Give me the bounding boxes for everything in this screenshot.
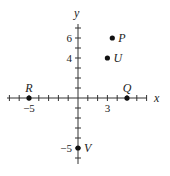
point-marker <box>26 95 31 100</box>
x-axis-label: x <box>153 91 160 105</box>
y-tick-labels: 64−5 <box>60 32 72 154</box>
point-label: Q <box>123 81 132 95</box>
coordinate-plane: x y −53 64−5 PURQV <box>0 0 170 176</box>
point-label: P <box>117 31 126 45</box>
x-tick-labels: −53 <box>23 102 111 114</box>
y-tick-label: 4 <box>67 52 73 64</box>
point-label: U <box>113 51 123 65</box>
point-marker <box>105 55 110 60</box>
y-tick-label: −5 <box>60 142 72 154</box>
x-tick-label: −5 <box>23 102 35 114</box>
point-p: P <box>110 31 127 45</box>
y-axis-label: y <box>73 6 80 20</box>
point-marker <box>124 95 129 100</box>
point-marker <box>75 145 80 150</box>
x-tick-label: 3 <box>105 102 111 114</box>
point-marker <box>110 35 115 40</box>
y-tick-label: 6 <box>67 32 73 44</box>
point-u: U <box>105 51 124 65</box>
point-label: V <box>84 141 93 155</box>
point-label: R <box>24 81 33 95</box>
